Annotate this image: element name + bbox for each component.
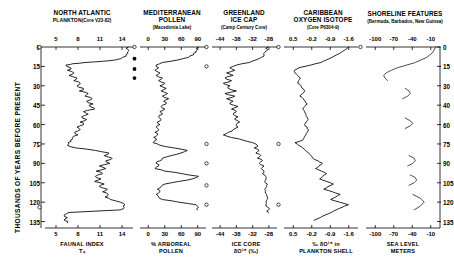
- data-curve-5: [409, 175, 417, 185]
- marker-open-circle: [277, 203, 280, 206]
- marker-open-circle: [38, 206, 41, 209]
- marker-open-circle: [205, 203, 208, 206]
- marker-open-circle: [205, 162, 208, 165]
- marker-filled-circle: [133, 57, 137, 61]
- marker-open-circle: [359, 45, 362, 48]
- data-curve-5: [413, 194, 424, 210]
- marker-open-circle: [205, 45, 208, 48]
- data-curve-4: [294, 47, 348, 220]
- marker-open-circle: [205, 65, 208, 68]
- plot-canvas: [0, 0, 454, 267]
- marker-open-circle: [277, 142, 280, 145]
- marker-filled-circle: [133, 76, 137, 80]
- marker-open-circle: [277, 45, 280, 48]
- data-curve-1: [64, 47, 129, 223]
- data-curve-2: [153, 47, 198, 210]
- data-curve-5: [405, 118, 413, 128]
- data-curve-5: [403, 88, 411, 98]
- data-curve-3: [223, 47, 269, 212]
- paleoclimate-correlation-figure: THOUSANDS OF YEARS BEFORE PRESENT 015304…: [0, 0, 454, 267]
- data-curve-5: [408, 156, 416, 166]
- marker-open-circle: [38, 142, 41, 145]
- marker-filled-circle: [133, 67, 137, 71]
- marker-open-circle: [133, 45, 136, 48]
- marker-open-circle: [205, 142, 208, 145]
- data-curve-5: [384, 47, 436, 81]
- marker-open-circle: [205, 184, 208, 187]
- marker-open-circle: [38, 45, 41, 48]
